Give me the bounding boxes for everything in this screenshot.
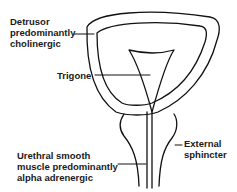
detrusor-label-line-3: cholinergic bbox=[10, 38, 75, 49]
external-sphincter-label-line-2: sphincter bbox=[184, 149, 227, 160]
urethral-smooth-muscle-label: Urethral smooth muscle predominantly alp… bbox=[17, 150, 118, 183]
inner-bladder-wall bbox=[97, 23, 206, 106]
urethral-label-line-2: muscle predominantly bbox=[17, 161, 118, 172]
urethral-label-line-3: alpha adrenergic bbox=[17, 172, 118, 183]
bladder-diagram: Detrusor predominantly cholinergic Trigo… bbox=[0, 0, 237, 192]
external-sphincter-label-line-1: External bbox=[184, 138, 227, 149]
trigone-label: Trigone bbox=[57, 70, 91, 81]
urethra-left-wall bbox=[120, 114, 139, 186]
urethra-right-wall bbox=[159, 114, 177, 186]
external-sphincter-label: External sphincter bbox=[184, 138, 227, 160]
urethral-label-line-1: Urethral smooth bbox=[17, 150, 118, 161]
detrusor-label: Detrusor predominantly cholinergic bbox=[10, 16, 75, 49]
detrusor-label-line-2: predominantly bbox=[10, 27, 75, 38]
detrusor-label-line-1: Detrusor bbox=[10, 16, 75, 27]
